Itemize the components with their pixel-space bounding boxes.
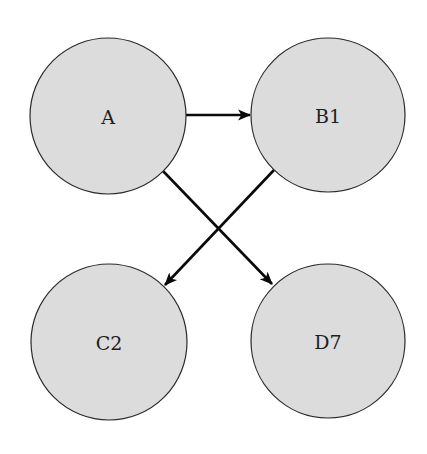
- node-b1-label: B1: [315, 105, 341, 127]
- node-a[interactable]: A: [30, 38, 186, 194]
- node-c2-label: C2: [96, 332, 123, 354]
- diagram-canvas: A B1 C2 D7: [0, 0, 427, 454]
- graph-svg: A B1 C2 D7: [0, 0, 427, 454]
- node-d7-label: D7: [314, 331, 341, 353]
- node-c2[interactable]: C2: [31, 264, 187, 420]
- node-d7[interactable]: D7: [251, 264, 405, 418]
- node-b1[interactable]: B1: [251, 38, 405, 192]
- node-a-label: A: [100, 106, 115, 128]
